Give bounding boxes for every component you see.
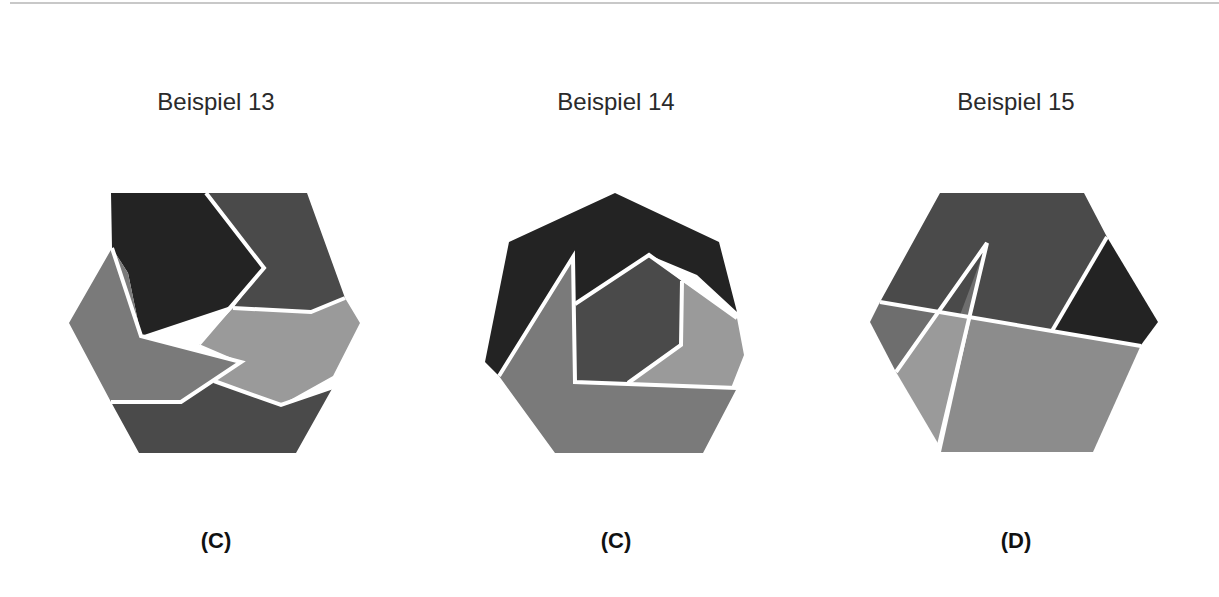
answer-label: (C) — [413, 528, 819, 554]
example-title: Beispiel 14 — [413, 88, 819, 116]
hexagon-puzzle-figure — [13, 180, 419, 470]
example-title: Beispiel 13 — [13, 88, 419, 116]
answer-label: (D) — [813, 528, 1219, 554]
hexagon-puzzle-figure — [813, 180, 1219, 470]
example-14-panel: Beispiel 14 (C) — [413, 0, 819, 597]
heptagon-puzzle-figure — [413, 180, 819, 470]
example-13-panel: Beispiel 13 (C) — [13, 0, 419, 597]
answer-label: (C) — [13, 528, 419, 554]
example-title: Beispiel 15 — [813, 88, 1219, 116]
example-15-panel: Beispiel 15 (D) — [813, 0, 1219, 597]
